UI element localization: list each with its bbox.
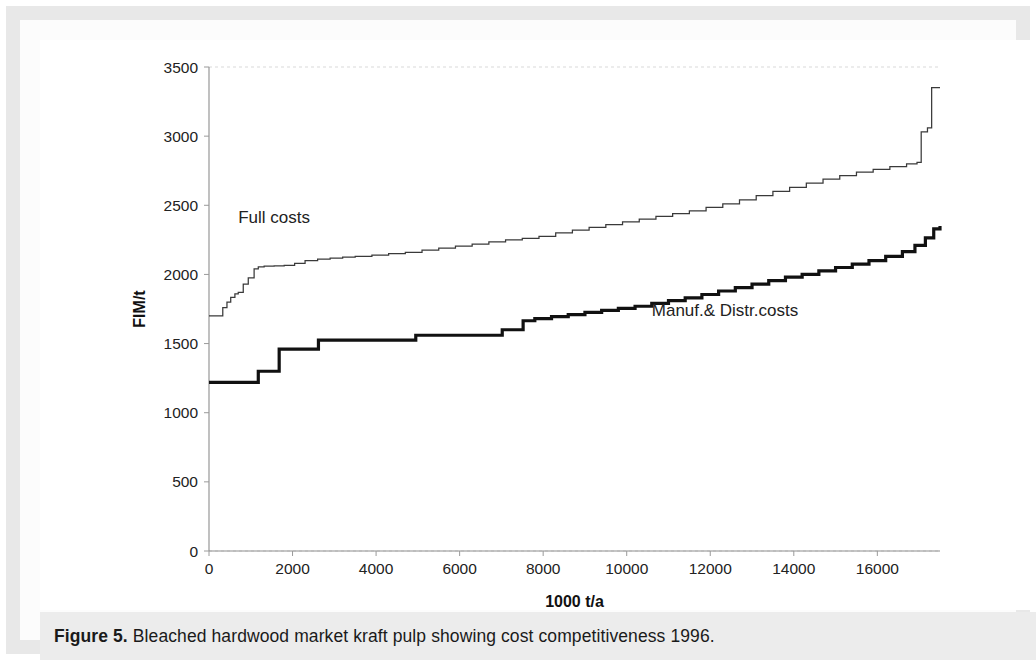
x-axis-tick-label: 4000	[359, 560, 394, 577]
y-axis-tick-label: 2000	[164, 266, 199, 283]
x-axis-tick-label: 8000	[526, 560, 561, 577]
series-annotation-1: Full costs	[238, 208, 310, 227]
caption-text: Figure 5. Bleached hardwood market kraft…	[40, 626, 715, 647]
series-line-full-costs	[209, 88, 940, 316]
caption-body: Bleached hardwood market kraft pulp show…	[128, 626, 715, 646]
x-axis-tick-label: 14000	[772, 560, 815, 577]
y-axis-tick-label: 3500	[164, 59, 199, 76]
caption-label: Figure 5.	[54, 626, 128, 646]
series-annotation-2: Manuf.& Distr.costs	[652, 301, 798, 320]
x-axis-tick-label: 16000	[856, 560, 899, 577]
x-axis-tick-label: 2000	[275, 560, 310, 577]
figure-root: 0500100015002000250030003500020004000600…	[0, 0, 1036, 660]
chart-panel: 0500100015002000250030003500020004000600…	[40, 40, 1036, 610]
x-axis-tick-label: 12000	[689, 560, 732, 577]
y-axis-tick-label: 500	[172, 473, 198, 490]
y-axis-tick-label: 0	[189, 543, 198, 560]
x-axis-title: 1000 t/a	[545, 593, 604, 610]
x-axis-tick-label: 0	[205, 560, 214, 577]
y-axis-tick-label: 1500	[164, 335, 199, 352]
cost-competitiveness-chart: 0500100015002000250030003500020004000600…	[40, 40, 1036, 610]
y-axis-tick-label: 2500	[164, 197, 199, 214]
y-axis-tick-label: 3000	[164, 128, 199, 145]
figure-caption: Figure 5. Bleached hardwood market kraft…	[40, 612, 1036, 660]
figure-frame: 0500100015002000250030003500020004000600…	[6, 6, 1030, 654]
y-axis-title: FIM/t	[131, 290, 148, 328]
plot-area: 0500100015002000250030003500020004000600…	[40, 40, 1036, 610]
x-axis-tick-label: 10000	[605, 560, 648, 577]
y-axis-tick-label: 1000	[164, 404, 199, 421]
x-axis-tick-label: 6000	[442, 560, 477, 577]
series-line-manuf-distr-costs	[209, 226, 940, 382]
